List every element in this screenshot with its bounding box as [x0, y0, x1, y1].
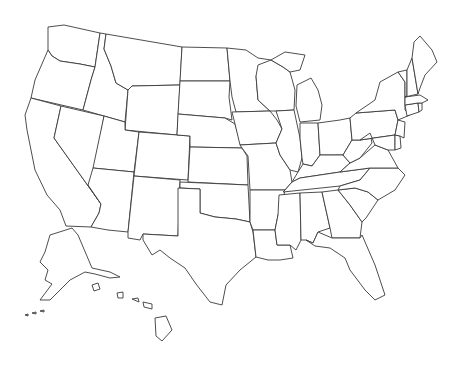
- state-hawaii[interactable]: Hawaii: [92, 283, 172, 341]
- state-mississippi[interactable]: Mississippi: [275, 193, 301, 250]
- state-south-dakota[interactable]: South Dakota: [178, 81, 232, 120]
- state-rhode-island[interactable]: Rhode Island: [418, 103, 422, 112]
- state-north-dakota[interactable]: North Dakota: [180, 47, 230, 81]
- state-iowa[interactable]: Iowa: [232, 111, 282, 145]
- state-new-mexico[interactable]: New Mexico: [128, 176, 180, 240]
- states-layer: WashingtonOregonCaliforniaIdahoNevadaMon…: [25, 25, 437, 341]
- state-kansas[interactable]: Kansas: [188, 147, 248, 185]
- us-states-map: WashingtonOregonCaliforniaIdahoNevadaMon…: [0, 0, 457, 365]
- state-delaware[interactable]: Delaware: [395, 135, 401, 150]
- state-montana[interactable]: Montana: [104, 34, 182, 90]
- state-florida[interactable]: Florida: [306, 232, 385, 300]
- state-wyoming[interactable]: Wyoming: [125, 85, 180, 135]
- state-colorado[interactable]: Colorado: [134, 132, 190, 180]
- state-alaska[interactable]: Alaska: [25, 228, 120, 316]
